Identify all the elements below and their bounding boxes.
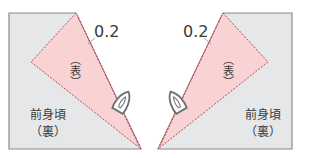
left-body-label-line1: 前身頃: [24, 107, 72, 124]
right-facing-label: （表）: [221, 54, 233, 87]
left-iron-icon: [112, 89, 134, 115]
right-body-label-line2: （裏）: [239, 124, 287, 141]
left-facing-label: （表）: [68, 54, 80, 87]
left-body-label: 前身頃 （裏）: [24, 107, 72, 141]
right-body-label: 前身頃 （裏）: [239, 107, 287, 141]
right-measurement-label: 0.2: [183, 22, 208, 41]
left-body-label-line2: （裏）: [24, 124, 72, 141]
right-iron-icon: [165, 89, 187, 115]
left-measurement-label: 0.2: [94, 22, 119, 41]
right-body-label-line1: 前身頃: [239, 107, 287, 124]
